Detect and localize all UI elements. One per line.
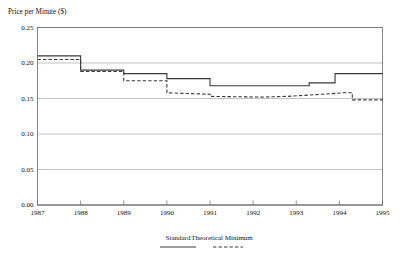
plot-area-frame [38,28,383,206]
x-axis-tick-labels: 198719881989199019911992199319941995 [31,201,391,218]
y-tick-label: 0.05 [21,166,34,174]
x-tick-label: 1991 [203,209,218,217]
x-tick-label: 1994 [332,209,347,217]
series-line-standard [38,56,383,86]
y-axis-tick-labels: 0.000.050.100.150.200.25 [21,24,34,210]
chart-container: Price per Minute ($) 0.000.050.100.150.2… [0,0,403,255]
y-tick-label: 0.15 [21,95,34,103]
legend-label-theoretical-minimum: Theoretical Minimum [191,234,253,242]
x-tick-label: 1995 [376,209,391,217]
legend-label-standard: Standard [166,234,191,242]
x-tick-label: 1993 [289,209,304,217]
price-per-minute-line-chart: Price per Minute ($) 0.000.050.100.150.2… [0,0,403,255]
x-tick-label: 1992 [246,209,261,217]
y-tick-label: 0.10 [21,130,34,138]
y-tick-label: 0.25 [21,24,34,32]
x-tick-label: 1990 [160,209,175,217]
x-tick-label: 1989 [117,209,132,217]
x-tick-label: 1987 [31,209,46,217]
gridlines [38,28,383,206]
y-tick-label: 0.20 [21,59,34,67]
chart-legend: StandardTheoretical Minimum [160,234,253,247]
y-axis-title: Price per Minute ($) [8,8,67,16]
x-tick-label: 1988 [74,209,89,217]
data-series-group [38,56,383,100]
